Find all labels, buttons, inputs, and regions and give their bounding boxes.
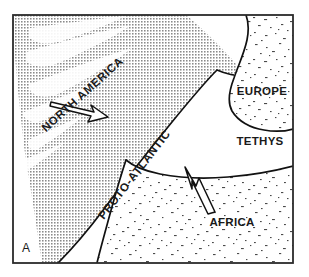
label-tethys: TETHYS bbox=[236, 135, 283, 147]
panel-label: A bbox=[22, 241, 31, 255]
plate-tectonic-map: NORTH AMERICA PROTO-ATLANTIC EUROPE TETH… bbox=[0, 0, 309, 277]
label-europe: EUROPE bbox=[237, 85, 287, 97]
figure-panel: NORTH AMERICA PROTO-ATLANTIC EUROPE TETH… bbox=[0, 0, 309, 277]
label-africa: AFRICA bbox=[209, 216, 254, 228]
